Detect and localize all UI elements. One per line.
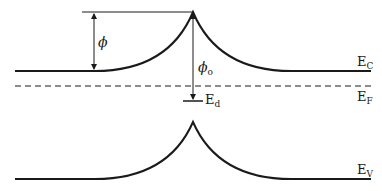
valence-band (15, 122, 371, 179)
phi-label: ϕ (98, 34, 108, 50)
ed-label: Ed (205, 92, 221, 109)
phi0-label: ϕo (198, 59, 213, 77)
ef-label: EF (357, 89, 373, 106)
band-diagram: ϕ ϕo EC EF Ed EV (0, 0, 382, 191)
ec-label: EC (357, 54, 374, 71)
ev-label: EV (357, 162, 374, 179)
